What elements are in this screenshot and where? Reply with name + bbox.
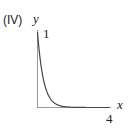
decay-curve xyxy=(38,32,110,108)
chart-plot xyxy=(0,0,133,129)
